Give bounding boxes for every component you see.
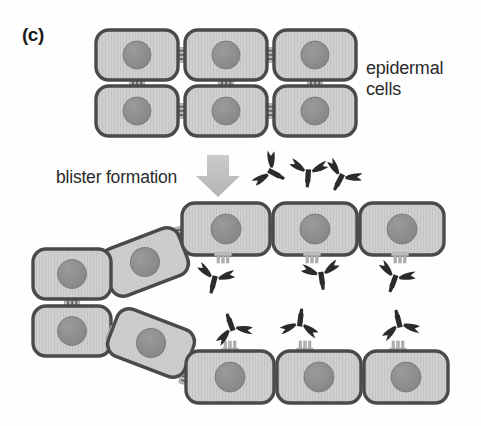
intact-epidermis-group	[96, 30, 356, 136]
epidermal-cell-intact	[185, 30, 267, 80]
bound-antibody-floor	[279, 306, 321, 339]
epidermal-cell-blister-floor	[186, 351, 274, 403]
epidermal-cell-intact	[274, 86, 356, 136]
desmosome-split-roof	[392, 252, 409, 263]
blister-upper-layer-group	[98, 203, 444, 300]
free-antibody	[288, 158, 329, 189]
epidermal-cell-intact	[33, 249, 111, 299]
bound-antibody-roof	[192, 261, 237, 298]
epidermal-cell-blister-roof	[273, 203, 357, 255]
epidermal-cell-blister-floor	[277, 351, 361, 403]
diagram-svg	[0, 0, 481, 426]
figure-canvas: (c) epidermal cells blister formation	[0, 0, 481, 426]
blister-formation-arrow	[196, 155, 240, 197]
epidermal-cell-intact	[96, 30, 178, 80]
epidermal-cell-blister-floor	[364, 351, 448, 403]
bound-antibody-floor	[209, 307, 255, 347]
bound-antibody-roof	[371, 259, 417, 299]
epidermal-cell-intact	[185, 86, 267, 136]
epidermal-cell-intact	[33, 306, 111, 356]
epidermal-cell-intact	[96, 86, 178, 136]
bound-antibody-roof	[300, 259, 343, 292]
blister-left-block-group	[33, 249, 111, 356]
bound-antibody-floor	[377, 305, 422, 342]
desmosome-split-roof	[215, 252, 232, 263]
free-antibody-group	[250, 148, 364, 199]
blister-lower-layer-group	[104, 305, 448, 403]
epidermal-cell-blister-roof	[182, 203, 270, 255]
epidermal-cell-intact	[274, 30, 356, 80]
epidermal-cell-blister-roof	[360, 203, 444, 255]
free-antibody	[250, 148, 293, 196]
epidermal-cell-detached	[104, 305, 198, 381]
desmosome-split-roof	[304, 252, 321, 263]
